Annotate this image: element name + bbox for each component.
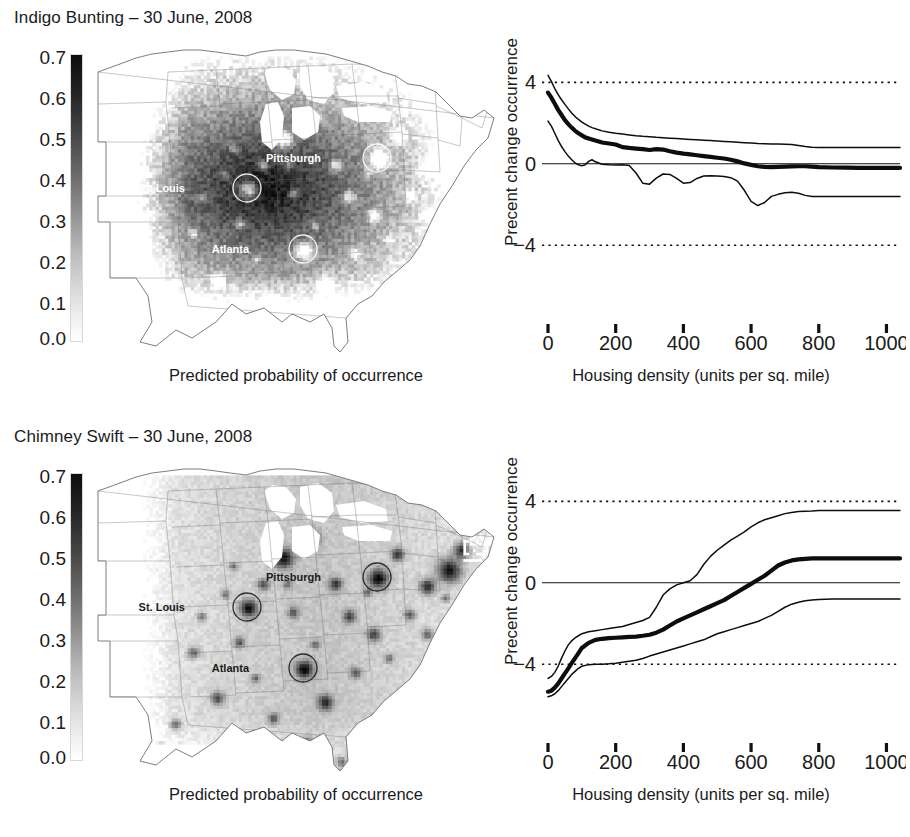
colorbar-tick-labels: 0.7 0.6 0.5 0.4 0.3 0.2 0.1 0.0 <box>8 467 66 767</box>
city-label: St. Louis <box>139 182 185 194</box>
map-svg: PittsburghSt. LouisAtlanta <box>96 465 496 777</box>
colorbar-tick: 0.0 <box>10 329 66 348</box>
colorbar-tick: 0.7 <box>10 48 66 67</box>
x-tick-label: 200 <box>599 751 632 773</box>
panel-title: Indigo Bunting – 30 June, 2008 <box>14 8 252 28</box>
y-tick-label: 4 <box>525 71 536 93</box>
colorbar-tick: 0.6 <box>10 89 66 108</box>
x-tick-label: 400 <box>667 332 700 354</box>
response-curve-indigo-bunting: Precent change occurrence 40−40200400600… <box>496 40 906 380</box>
series-line-thick <box>548 558 900 691</box>
colorbar-gradient <box>70 54 83 342</box>
x-axis-label: Housing density (units per sq. mile) <box>496 785 906 804</box>
occurrence-map-chimney-swift: PittsburghSt. LouisAtlanta <box>96 465 496 777</box>
plot-svg: 40−402004006008001000 <box>496 40 906 380</box>
x-tick-label: 200 <box>599 332 632 354</box>
y-axis-label: Precent change occurrence <box>502 465 522 665</box>
colorbar-tick-labels: 0.7 0.6 0.5 0.4 0.3 0.2 0.1 0.0 <box>8 48 66 348</box>
colorbar-tick: 0.3 <box>10 212 66 231</box>
map-caption: Predicted probability of occurrence <box>96 366 496 385</box>
y-tick-label: 0 <box>525 572 536 594</box>
x-tick-label: 600 <box>734 751 767 773</box>
colorbar-tick: 0.6 <box>10 508 66 527</box>
map-svg: PittsburghSt. LouisAtlanta <box>96 46 496 358</box>
colorbar-tick: 0.4 <box>10 590 66 609</box>
colorbar-chimney-swift: 0.7 0.6 0.5 0.4 0.3 0.2 0.1 0.0 <box>8 467 94 767</box>
x-tick-label: 800 <box>802 751 835 773</box>
occurrence-map-indigo-bunting: PittsburghSt. LouisAtlanta <box>96 46 496 358</box>
colorbar-tick: 0.3 <box>10 631 66 650</box>
x-axis-label: Housing density (units per sq. mile) <box>496 366 906 385</box>
response-curve-chimney-swift: Precent change occurrence 40−40200400600… <box>496 459 906 799</box>
figure-panel-chimney-swift: Chimney Swift – 30 June, 2008 0.7 0.6 0.… <box>0 419 910 837</box>
colorbar-tick: 0.5 <box>10 130 66 149</box>
y-tick-label: 0 <box>525 153 536 175</box>
city-label: Atlanta <box>212 243 250 255</box>
x-tick-label: 600 <box>734 332 767 354</box>
colorbar-tick: 0.1 <box>10 294 66 313</box>
panel-title: Chimney Swift – 30 June, 2008 <box>14 427 252 447</box>
plot-svg: 40−402004006008001000 <box>496 459 906 799</box>
y-tick-label: 4 <box>525 490 536 512</box>
y-axis-label: Precent change occurrence <box>502 46 522 246</box>
series-line-thin <box>548 599 900 697</box>
colorbar-tick: 0.1 <box>10 713 66 732</box>
series-line-thin <box>548 511 900 679</box>
colorbar-tick: 0.2 <box>10 672 66 691</box>
colorbar-gradient <box>70 473 83 761</box>
colorbar-indigo-bunting: 0.7 0.6 0.5 0.4 0.3 0.2 0.1 0.0 <box>8 48 94 348</box>
x-tick-label: 1000 <box>864 332 906 354</box>
colorbar-tick: 0.7 <box>10 467 66 486</box>
city-label: Pittsburgh <box>266 152 321 164</box>
city-label: Atlanta <box>212 662 250 674</box>
figure-panel-indigo-bunting: Indigo Bunting – 30 June, 2008 0.7 0.6 0… <box>0 0 910 418</box>
x-tick-label: 1000 <box>864 751 906 773</box>
x-tick-label: 400 <box>667 751 700 773</box>
colorbar-tick: 0.2 <box>10 253 66 272</box>
x-tick-label: 0 <box>542 332 553 354</box>
city-label: St. Louis <box>139 601 185 613</box>
map-caption: Predicted probability of occurrence <box>96 785 496 804</box>
colorbar-tick: 0.5 <box>10 549 66 568</box>
city-label: Pittsburgh <box>266 571 321 583</box>
colorbar-tick: 0.0 <box>10 748 66 767</box>
x-tick-label: 0 <box>542 751 553 773</box>
series-line-thin <box>548 75 900 147</box>
x-tick-label: 800 <box>802 332 835 354</box>
colorbar-tick: 0.4 <box>10 171 66 190</box>
